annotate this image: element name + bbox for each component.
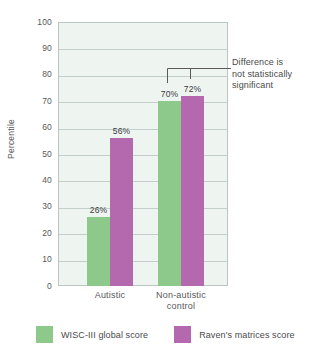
legend-item-ravens: Raven's matrices score [174, 326, 294, 343]
gridline [59, 76, 227, 77]
y-axis-title: Percentile [6, 109, 16, 169]
annotation-line-3: significant [232, 80, 330, 92]
gridline [59, 181, 227, 182]
y-axis-tick-label: 10 [6, 255, 52, 264]
annotation-line-1: Difference is [232, 57, 330, 69]
y-axis-tick-label: 100 [6, 18, 52, 27]
gridline [59, 129, 227, 130]
plot-area [58, 22, 228, 286]
y-axis-tick-label: 70 [6, 97, 52, 106]
y-axis-tick-label: 90 [6, 44, 52, 53]
y-axis-tick-label: 0 [6, 282, 52, 291]
gridline [59, 261, 227, 262]
legend-swatch-icon-ravens [174, 326, 191, 343]
legend-item-wisc: WISC-III global score [36, 326, 148, 343]
annotation-line-2: not statistically [232, 69, 330, 81]
gridline [59, 208, 227, 209]
x-axis-category-label-line: control [136, 301, 226, 312]
gridline [59, 102, 227, 103]
bar-chart: 1009080706050403020100 Percentile 26%56%… [0, 0, 332, 359]
y-axis-tick-label: 30 [6, 202, 52, 211]
gridline [59, 155, 227, 156]
legend-label-wisc: WISC-III global score [61, 330, 148, 340]
legend: WISC-III global score Raven's matrices s… [36, 326, 295, 343]
significance-annotation: Difference is not statistically signific… [232, 57, 330, 92]
y-axis-tick-label: 80 [6, 70, 52, 79]
y-axis-tick-label: 20 [6, 229, 52, 238]
gridline [59, 234, 227, 235]
x-axis-category-label: Non-autisticcontrol [136, 290, 226, 312]
gridlines [59, 23, 227, 285]
legend-swatch-icon-wisc [36, 326, 53, 343]
gridline [59, 49, 227, 50]
y-axis-tick-label: 40 [6, 176, 52, 185]
legend-label-ravens: Raven's matrices score [199, 330, 294, 340]
x-axis-category-label-line: Non-autistic [136, 290, 226, 301]
